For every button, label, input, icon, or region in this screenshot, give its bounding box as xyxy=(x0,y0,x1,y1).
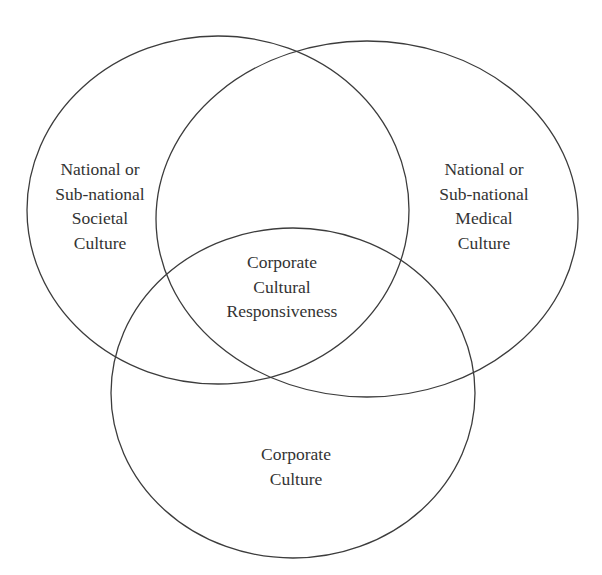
label-line: Culture xyxy=(270,469,323,489)
label-line: National or xyxy=(444,159,523,179)
label-line: Sub-national xyxy=(439,184,529,204)
label-line: Culture xyxy=(458,233,511,253)
label-cultural-responsiveness: Corporate Cultural Responsiveness xyxy=(227,252,338,321)
ellipse-medical-culture xyxy=(156,41,578,397)
label-societal-culture: National or Sub-national Societal Cultur… xyxy=(55,159,145,253)
label-line: Societal xyxy=(72,208,129,228)
label-line: Corporate xyxy=(261,444,331,464)
label-medical-culture: National or Sub-national Medical Culture xyxy=(439,159,529,253)
label-line: Cultural xyxy=(253,277,310,297)
venn-diagram: National or Sub-national Societal Cultur… xyxy=(0,0,602,575)
label-line: National or xyxy=(60,159,139,179)
label-line: Corporate xyxy=(247,252,317,272)
label-line: Responsiveness xyxy=(227,301,338,321)
label-line: Culture xyxy=(74,233,127,253)
label-corporate-culture: Corporate Culture xyxy=(261,444,331,489)
label-line: Medical xyxy=(455,208,512,228)
label-line: Sub-national xyxy=(55,184,145,204)
